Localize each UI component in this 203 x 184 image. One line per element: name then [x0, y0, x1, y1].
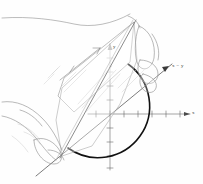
- right-hand-fingers: [135, 26, 159, 93]
- x-axis-label: x: [192, 110, 195, 115]
- y-axis-label: y: [113, 44, 116, 49]
- sketch-canvas: [0, 0, 203, 184]
- diagonal-line-label: x = y: [172, 63, 184, 68]
- lower-left-hand: [2, 102, 64, 164]
- x-axis-arrowhead: [184, 112, 190, 116]
- upper-arm-outline: [2, 14, 140, 28]
- hand-drawn-fold-figure: x = y x y: [0, 0, 203, 184]
